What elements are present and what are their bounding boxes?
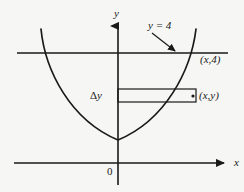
figure-parabola-delta-y: y x 0 y = 4 (x,4) (x,y) Δy	[0, 0, 244, 192]
delta-y-label: Δy	[90, 90, 102, 101]
point-marker-xy	[191, 94, 194, 97]
delta-y-strip	[118, 89, 196, 102]
point-label-x-4: (x,4)	[200, 54, 220, 65]
y-axis-label: y	[114, 8, 119, 19]
delta-y-variable: y	[97, 89, 102, 101]
point-label-x-y: (x,y)	[199, 90, 219, 101]
origin-label: 0	[107, 166, 113, 177]
y-equals-4-pointer-arrow	[152, 33, 175, 51]
line-y-equals-4-label: y = 4	[148, 20, 171, 31]
x-axis-label: x	[234, 157, 239, 168]
